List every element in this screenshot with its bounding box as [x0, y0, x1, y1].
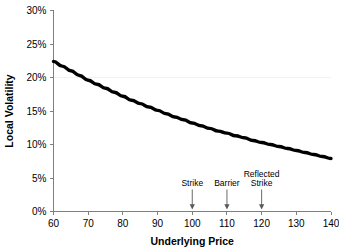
- annotation-label: Barrier: [214, 178, 240, 188]
- x-tick-label: 80: [117, 218, 129, 229]
- x-tick-label: 90: [152, 218, 164, 229]
- local-volatility-curve: [54, 61, 332, 158]
- annotation-label: Strike: [181, 178, 203, 188]
- y-tick-label: 30%: [26, 5, 46, 16]
- chart-canvas: 0%5%10%15%20%25%30%607080901001101201301…: [0, 0, 339, 252]
- x-tick-label: 130: [288, 218, 305, 229]
- x-tick-label: 110: [219, 218, 235, 229]
- x-tick-label: 60: [48, 218, 60, 229]
- y-tick-label: 25%: [26, 39, 46, 50]
- x-tick-label: 70: [83, 218, 95, 229]
- y-tick-label: 20%: [26, 72, 46, 83]
- annotation-arrow-head: [224, 204, 229, 209]
- annotation-label: Strike: [251, 178, 273, 188]
- y-axis-title: Local Volatility: [3, 74, 15, 147]
- x-tick-label: 140: [323, 218, 339, 229]
- annotation-label: Reflected: [244, 169, 280, 179]
- annotation-arrow-head: [190, 204, 195, 209]
- local-volatility-chart: 0%5%10%15%20%25%30%607080901001101201301…: [0, 0, 339, 252]
- annotation-arrow-head: [259, 204, 264, 209]
- y-tick-label: 0%: [32, 206, 47, 217]
- x-axis-title: Underlying Price: [151, 235, 235, 247]
- x-tick-label: 120: [253, 218, 270, 229]
- y-tick-label: 5%: [32, 173, 47, 184]
- y-tick-label: 15%: [26, 106, 46, 117]
- y-tick-label: 10%: [26, 139, 46, 150]
- x-tick-label: 100: [184, 218, 201, 229]
